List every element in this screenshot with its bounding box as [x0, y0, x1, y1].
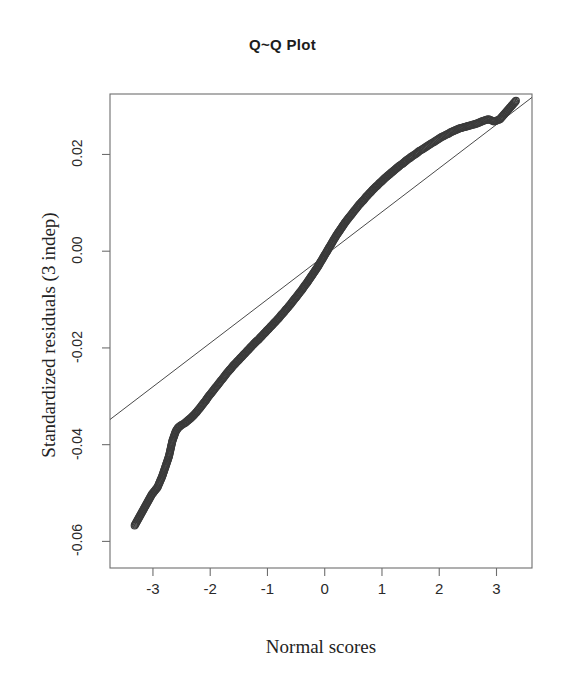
y-tick-label: 0.00	[69, 227, 85, 273]
data-points-group	[131, 97, 519, 528]
y-tick-label: -0.06	[69, 517, 85, 563]
qq-plot-figure: Q~Q Plot Standardized residuals (3 indep…	[0, 0, 565, 682]
x-tick-label: 0	[310, 580, 340, 597]
x-tick-label: -2	[195, 580, 225, 597]
x-tick-label: -1	[252, 580, 282, 597]
x-tick-label: 2	[424, 580, 454, 597]
axes-group	[102, 94, 532, 576]
plot-box	[110, 94, 532, 568]
y-tick-label: 0.02	[69, 130, 85, 176]
x-tick-label: 3	[481, 580, 511, 597]
y-tick-label: -0.04	[69, 421, 85, 467]
x-tick-label: 1	[367, 580, 397, 597]
x-tick-label: -3	[138, 580, 168, 597]
y-tick-label: -0.02	[69, 324, 85, 370]
